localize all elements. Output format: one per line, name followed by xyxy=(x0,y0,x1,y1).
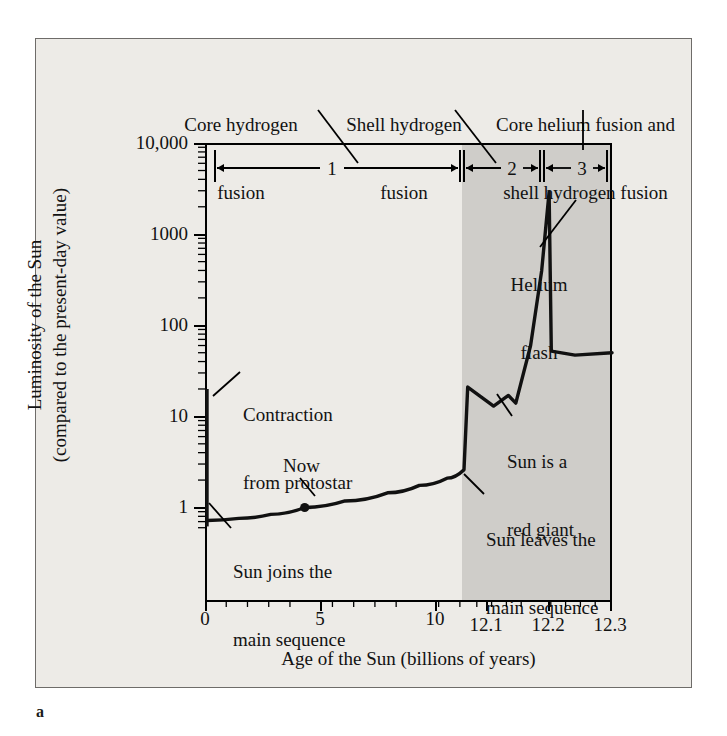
y-tick-100 xyxy=(194,325,205,327)
annotation-redgiant-line2: red giant xyxy=(507,519,657,542)
annotation-redgiant-line1: Sun is a xyxy=(507,451,657,474)
y-axis-title: Luminosity of the Sun (compared to the p… xyxy=(22,160,72,490)
phase-label-1-line1: Core hydrogen xyxy=(166,114,316,137)
phase-label-2-line1: Shell hydrogen xyxy=(329,114,479,137)
panel-label: a xyxy=(36,703,44,721)
annotation-joins-line1: Sun joins the xyxy=(233,561,433,584)
annotation-sun-is-a-red-giant: Sun is a red giant xyxy=(507,405,657,587)
annotation-sun-joins-main-sequence: Sun joins the main sequence xyxy=(233,515,433,697)
y-tick-1 xyxy=(194,507,205,509)
y-tick-label-100: 100 xyxy=(100,314,188,336)
phase-label-2-line2: fusion xyxy=(329,182,479,205)
y-tick-10 xyxy=(194,416,205,418)
annotation-now: Now xyxy=(283,455,320,478)
y-tick-label-10: 10 xyxy=(100,405,188,427)
y-axis-title-line2: (compared to the present-day value) xyxy=(47,160,72,490)
annotation-contraction-from-protostar: Contraction from protostar xyxy=(243,358,433,540)
annotation-contraction-line2: from protostar xyxy=(243,472,433,495)
phase-label-3-line2: shell hydrogen fusion xyxy=(478,182,693,205)
y-tick-label-1: 1 xyxy=(100,496,188,518)
x-tick-label-0: 0 xyxy=(185,608,225,630)
annotation-helium-flash: Helium flash xyxy=(484,228,594,410)
phase-label-3-line1: Core helium fusion and xyxy=(478,114,693,137)
annotation-helium-line1: Helium xyxy=(484,274,594,297)
phase-label-shell-hydrogen-fusion: Shell hydrogen fusion xyxy=(329,68,479,250)
y-axis-title-line1: Luminosity of the Sun xyxy=(22,160,47,490)
annotation-joins-line2: main sequence xyxy=(233,629,433,652)
annotation-helium-line2: flash xyxy=(484,342,594,365)
annotation-contraction-line1: Contraction xyxy=(243,404,433,427)
phase-label-1-line2: fusion xyxy=(166,182,316,205)
annotation-leaves-line2: main sequence xyxy=(486,597,686,620)
phase-label-core-helium-fusion: Core helium fusion and shell hydrogen fu… xyxy=(478,68,693,250)
figure-page: 1 10 100 1000 10,000 Luminosity of the S… xyxy=(0,0,727,736)
phase-label-core-hydrogen-fusion: Core hydrogen fusion xyxy=(166,68,316,250)
